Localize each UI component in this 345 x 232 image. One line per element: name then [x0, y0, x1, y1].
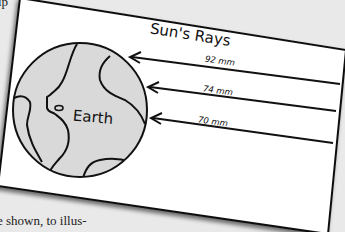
planet-label: Earth	[72, 107, 114, 128]
sun-rays-diagram: Earth Sun's Rays 92 mm 74 mm 70 mm	[0, 0, 345, 232]
earth-globe: Earth	[13, 43, 147, 178]
